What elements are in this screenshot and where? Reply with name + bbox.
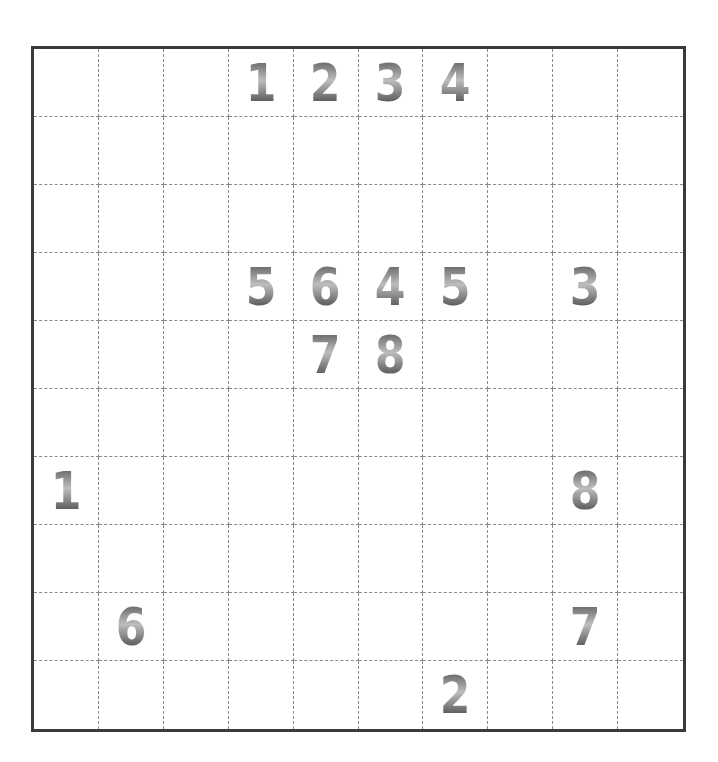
grid-cell-r9-c3[interactable] [229,661,294,729]
grid-cell-r5-c7[interactable] [488,389,553,457]
grid-cell-r4-c3[interactable] [229,321,294,389]
grid-cell-r0-c7[interactable] [488,49,553,117]
grid-cell-r5-c2[interactable] [164,389,229,457]
grid-cell-r0-c6[interactable]: 4 [423,49,488,117]
grid-cell-r6-c3[interactable] [229,457,294,525]
grid-cell-r4-c4[interactable]: 7 [294,321,359,389]
grid-cell-r3-c9[interactable] [618,253,683,321]
grid-cell-r4-c0[interactable] [34,321,99,389]
grid-cell-r3-c7[interactable] [488,253,553,321]
grid-cell-r9-c1[interactable] [99,661,164,729]
grid-cell-r8-c5[interactable] [359,593,424,661]
grid-cell-r7-c0[interactable] [34,525,99,593]
grid-cell-r4-c2[interactable] [164,321,229,389]
grid-cell-r4-c9[interactable] [618,321,683,389]
grid-cell-r8-c8[interactable]: 7 [553,593,618,661]
grid-cell-r5-c8[interactable] [553,389,618,457]
grid-cell-r3-c2[interactable] [164,253,229,321]
grid-cell-r6-c4[interactable] [294,457,359,525]
grid-cell-r5-c9[interactable] [618,389,683,457]
grid-cell-r2-c5[interactable] [359,185,424,253]
grid-cell-r0-c5[interactable]: 3 [359,49,424,117]
grid-cell-r1-c2[interactable] [164,117,229,185]
grid-cell-r1-c8[interactable] [553,117,618,185]
grid-cell-r1-c1[interactable] [99,117,164,185]
grid-cell-r3-c8[interactable]: 3 [553,253,618,321]
grid-cell-r2-c6[interactable] [423,185,488,253]
grid-cell-r3-c3[interactable]: 5 [229,253,294,321]
grid-cell-r4-c1[interactable] [99,321,164,389]
grid-cell-r1-c3[interactable] [229,117,294,185]
grid-cell-r6-c9[interactable] [618,457,683,525]
grid-cell-r5-c4[interactable] [294,389,359,457]
grid-cell-r5-c0[interactable] [34,389,99,457]
grid-cell-r9-c4[interactable] [294,661,359,729]
grid-cell-r9-c8[interactable] [553,661,618,729]
grid-cell-r7-c5[interactable] [359,525,424,593]
grid-cell-r6-c7[interactable] [488,457,553,525]
grid-cell-r2-c9[interactable] [618,185,683,253]
grid-cell-r1-c7[interactable] [488,117,553,185]
grid-cell-r9-c0[interactable] [34,661,99,729]
grid-cell-r1-c9[interactable] [618,117,683,185]
grid-cell-r0-c4[interactable]: 2 [294,49,359,117]
grid-cell-r1-c5[interactable] [359,117,424,185]
grid-cell-r2-c2[interactable] [164,185,229,253]
grid-cell-r1-c6[interactable] [423,117,488,185]
grid-cell-r1-c4[interactable] [294,117,359,185]
grid-cell-r1-c0[interactable] [34,117,99,185]
grid-cell-r7-c7[interactable] [488,525,553,593]
grid-cell-r8-c1[interactable]: 6 [99,593,164,661]
grid-cell-r0-c0[interactable] [34,49,99,117]
grid-cell-r3-c6[interactable]: 5 [423,253,488,321]
grid-cell-r4-c5[interactable]: 8 [359,321,424,389]
grid-cell-r7-c9[interactable] [618,525,683,593]
grid-cell-r6-c5[interactable] [359,457,424,525]
grid-cell-r5-c3[interactable] [229,389,294,457]
grid-cell-r7-c4[interactable] [294,525,359,593]
grid-cell-r2-c1[interactable] [99,185,164,253]
grid-cell-r6-c1[interactable] [99,457,164,525]
grid-cell-r7-c2[interactable] [164,525,229,593]
grid-cell-r6-c8[interactable]: 8 [553,457,618,525]
grid-cell-r9-c5[interactable] [359,661,424,729]
grid-cell-r3-c5[interactable]: 4 [359,253,424,321]
grid-cell-r0-c8[interactable] [553,49,618,117]
grid-cell-r2-c7[interactable] [488,185,553,253]
grid-cell-r9-c2[interactable] [164,661,229,729]
grid-cell-r7-c3[interactable] [229,525,294,593]
grid-cell-r8-c4[interactable] [294,593,359,661]
grid-cell-r2-c4[interactable] [294,185,359,253]
grid-cell-r4-c8[interactable] [553,321,618,389]
grid-cell-r5-c6[interactable] [423,389,488,457]
grid-cell-r3-c0[interactable] [34,253,99,321]
grid-cell-r8-c2[interactable] [164,593,229,661]
grid-cell-r4-c7[interactable] [488,321,553,389]
grid-cell-r6-c0[interactable]: 1 [34,457,99,525]
grid-cell-r2-c8[interactable] [553,185,618,253]
grid-cell-r9-c7[interactable] [488,661,553,729]
grid-cell-r3-c4[interactable]: 6 [294,253,359,321]
grid-cell-r0-c3[interactable]: 1 [229,49,294,117]
grid-cell-r7-c1[interactable] [99,525,164,593]
grid-cell-r9-c9[interactable] [618,661,683,729]
grid-cell-r2-c3[interactable] [229,185,294,253]
grid-cell-r0-c1[interactable] [99,49,164,117]
grid-cell-r0-c2[interactable] [164,49,229,117]
grid-cell-r5-c1[interactable] [99,389,164,457]
grid-cell-r2-c0[interactable] [34,185,99,253]
grid-cell-r8-c7[interactable] [488,593,553,661]
grid-cell-r7-c6[interactable] [423,525,488,593]
grid-cell-r3-c1[interactable] [99,253,164,321]
grid-cell-r9-c6[interactable]: 2 [423,661,488,729]
grid-cell-r4-c6[interactable] [423,321,488,389]
grid-cell-r0-c9[interactable] [618,49,683,117]
grid-cell-r6-c2[interactable] [164,457,229,525]
grid-cell-r8-c3[interactable] [229,593,294,661]
grid-cell-r5-c5[interactable] [359,389,424,457]
grid-cell-r7-c8[interactable] [553,525,618,593]
grid-cell-r6-c6[interactable] [423,457,488,525]
grid-cell-r8-c6[interactable] [423,593,488,661]
grid-cell-r8-c9[interactable] [618,593,683,661]
grid-cell-r8-c0[interactable] [34,593,99,661]
